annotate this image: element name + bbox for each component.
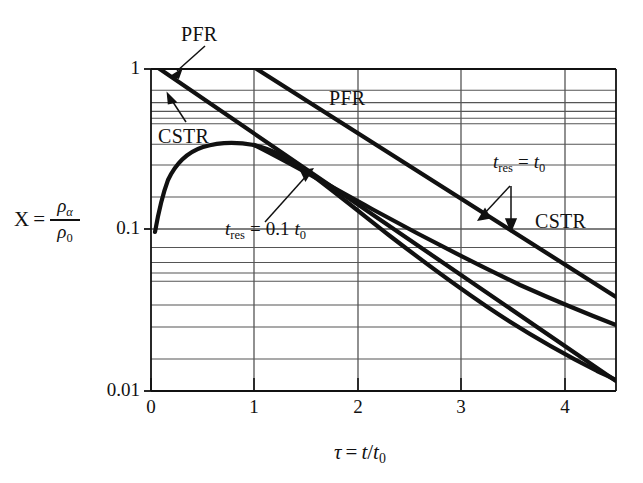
curve-cstr-low [155, 143, 616, 380]
x-tick-label-0: 0 [136, 397, 166, 416]
label-tres-high: tres=t0 [493, 152, 545, 174]
y-tick-label-0.01: 0.01 [70, 380, 140, 399]
label-pfr-mid: PFR [329, 88, 366, 108]
tres-low-value: 0.1 [266, 218, 290, 239]
label-tres-low: tres=0.1t0 [225, 219, 306, 241]
annotation-leaders [168, 46, 517, 231]
figure-container: 1 0.1 0.01 0 1 2 3 4 X= ρα ρ0 τ=t/t0 PFR… [0, 0, 643, 483]
x-tick-label-1: 1 [239, 397, 269, 416]
tres-low-sub: res [230, 228, 245, 242]
y-axis-label-x: X [14, 207, 29, 231]
tres-low-t0-sub: 0 [300, 228, 306, 242]
x-axis-label-equals: = [346, 440, 358, 464]
y-ticks [144, 69, 151, 391]
x-tick-label-3: 3 [446, 397, 476, 416]
y-axis-numerator-base: ρ [57, 195, 66, 216]
x-axis-label: τ=t/t0 [334, 440, 386, 467]
y-tick-label-1: 1 [110, 58, 140, 77]
label-pfr-top-left: PFR [181, 24, 218, 44]
x-ticks [151, 378, 565, 391]
y-axis-label-equals: = [33, 207, 45, 231]
y-axis-numerator-sub: α [66, 205, 73, 219]
tres-high-t0-sub: 0 [539, 161, 545, 175]
x-tick-label-2: 2 [343, 397, 373, 416]
x-axis-label-tau: τ [334, 440, 342, 464]
y-axis-denominator-sub: 0 [66, 230, 72, 244]
tres-high-equals: = [518, 151, 529, 172]
y-tick-label-0.1: 0.1 [85, 218, 140, 237]
y-axis-label-fraction: ρα ρ0 [50, 196, 80, 244]
label-cstr-right: CSTR [535, 211, 586, 231]
tres-low-equals: = [250, 218, 261, 239]
chart-canvas [0, 0, 643, 483]
x-tick-label-4: 4 [550, 397, 580, 416]
label-cstr-top-left: CSTR [158, 126, 209, 146]
tres-high-sub: res [498, 161, 513, 175]
x-axis-label-t0-sub: 0 [379, 451, 386, 466]
y-axis-label: X= ρα ρ0 [14, 196, 80, 244]
